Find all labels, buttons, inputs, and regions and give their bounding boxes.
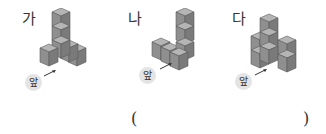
- figure-label: 나: [128, 12, 142, 27]
- cube-stack-illustration: [248, 12, 326, 92]
- cube-stack-illustration: [148, 8, 228, 88]
- front-badge: 앞: [139, 67, 156, 84]
- arrow-icon: [254, 68, 268, 76]
- front-badge: 앞: [235, 73, 252, 90]
- answer-close-paren: ): [303, 109, 309, 128]
- arrow-icon: [43, 69, 57, 77]
- figure-na: 나 앞: [110, 0, 218, 100]
- front-badge: 앞: [25, 74, 42, 91]
- figure-label: 다: [232, 12, 246, 27]
- figure-ga: 가 앞: [0, 0, 108, 100]
- figure-label: 가: [22, 12, 36, 27]
- answer-open-paren: (: [131, 109, 137, 128]
- figure-da: 다 앞: [218, 0, 326, 100]
- answer-blank[interactable]: [145, 109, 305, 127]
- arrow-icon: [159, 62, 173, 70]
